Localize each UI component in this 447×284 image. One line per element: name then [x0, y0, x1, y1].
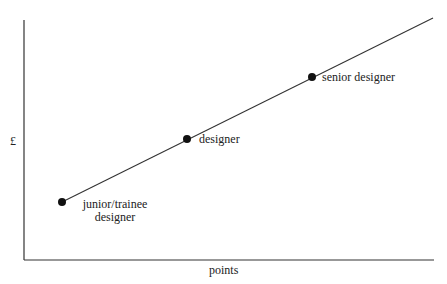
data-point-senior — [308, 73, 316, 81]
annotation-junior: junior/trainee designer — [75, 198, 155, 224]
trend-line — [62, 18, 433, 202]
annotation-junior-line2: designer — [75, 211, 155, 224]
data-point-junior — [58, 198, 66, 206]
annotation-designer: designer — [199, 133, 240, 146]
x-axis-label: points — [209, 264, 238, 277]
y-axis-label: £ — [10, 135, 16, 148]
data-point-designer — [183, 135, 191, 143]
annotation-senior: senior designer — [322, 71, 395, 84]
